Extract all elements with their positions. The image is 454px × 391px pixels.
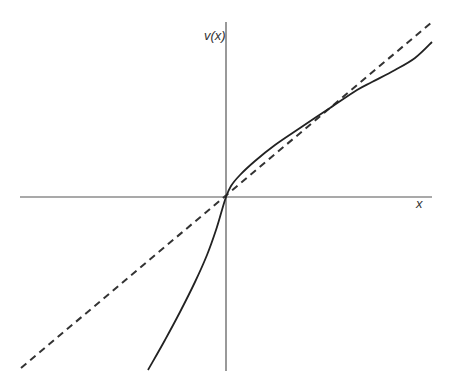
plot-canvas: v(x) x xyxy=(0,0,454,391)
v-curve xyxy=(148,42,432,370)
x-axis-label: x xyxy=(415,196,423,211)
y-axis-label: v(x) xyxy=(204,28,226,43)
